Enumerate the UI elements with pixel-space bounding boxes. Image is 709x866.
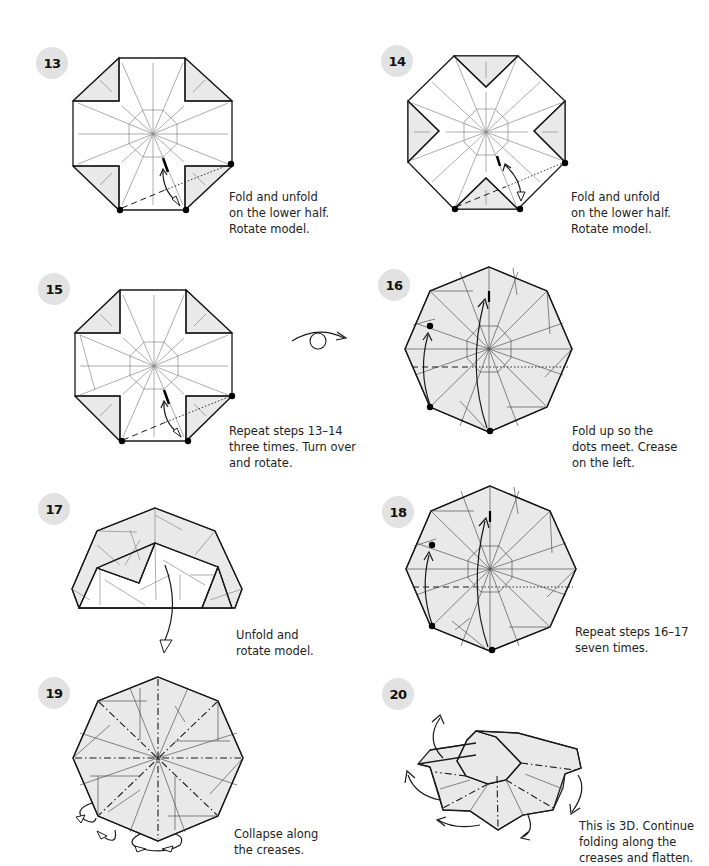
step-20-diagram [0,0,709,866]
step-20-caption: This is 3D. Continue folding along the c… [579,818,694,866]
